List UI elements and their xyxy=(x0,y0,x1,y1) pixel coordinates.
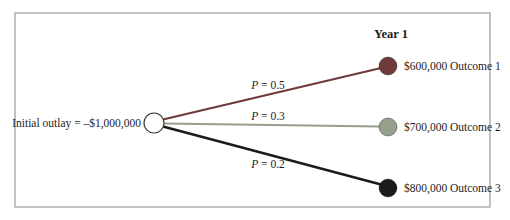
outcome-2-label: $700,000 Outcome 2 xyxy=(404,121,501,134)
outcome-3-label: $800,000 Outcome 3 xyxy=(404,182,501,195)
probability-value-3: = 0.2 xyxy=(258,158,285,170)
probability-label-1: P = 0.5 xyxy=(250,79,285,91)
initial-outlay-label: Initial outlay = –$1,000,000 xyxy=(12,117,141,130)
outcome-3-node xyxy=(379,179,397,197)
outcome-1-label: $600,000 Outcome 1 xyxy=(404,60,501,73)
probability-label-3: P = 0.2 xyxy=(250,158,285,170)
root-chance-node xyxy=(144,113,164,133)
year-1-header: Year 1 xyxy=(374,27,408,41)
decision-tree-figure: Year 1 P = 0.5 P = 0.3 P = 0.2 Initial o… xyxy=(0,0,510,220)
outcome-2-node xyxy=(379,118,397,136)
probability-label-2: P = 0.3 xyxy=(250,110,285,122)
probability-symbol-3: P xyxy=(250,158,258,170)
probability-symbol-2: P xyxy=(250,110,258,122)
outcome-1-node xyxy=(379,57,397,75)
probability-value-1: = 0.5 xyxy=(258,79,285,91)
probability-value-2: = 0.3 xyxy=(258,110,285,122)
decision-tree-svg: Year 1 P = 0.5 P = 0.3 P = 0.2 Initial o… xyxy=(0,0,510,220)
probability-symbol-1: P xyxy=(250,79,258,91)
